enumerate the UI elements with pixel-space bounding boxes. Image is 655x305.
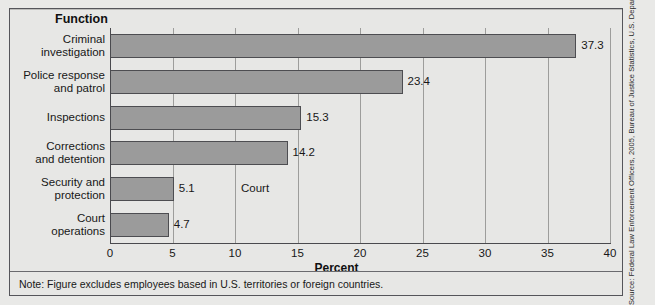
figure-container: Function CriminalinvestigationPolice res… (0, 0, 655, 305)
figure-note: Note: Figure excludes employees based in… (19, 278, 383, 290)
category-label-line: Police response (1, 69, 105, 82)
x-axis-title: Percent (0, 261, 655, 275)
category-label-line: and detention (1, 153, 105, 166)
x-tick-label: 5 (153, 247, 193, 260)
category-label-line: Security and (1, 176, 105, 189)
bar-value-label: 23.4 (408, 76, 430, 88)
x-tick-label: 20 (340, 247, 380, 260)
gridline (360, 28, 361, 243)
x-axis-line (110, 243, 611, 244)
bar-value-label: 14.2 (293, 147, 315, 159)
note-divider (10, 271, 622, 272)
bar (110, 141, 288, 165)
category-label: Courtoperations (1, 212, 105, 238)
bar (110, 213, 169, 237)
category-label-line: protection (1, 189, 105, 202)
court-annotation-label: Court (241, 182, 269, 194)
category-label-line: Criminal (1, 33, 105, 46)
gridline (610, 28, 611, 243)
x-tick-label: 40 (590, 247, 630, 260)
x-tick-label: 10 (215, 247, 255, 260)
bar-value-label: 15.3 (306, 112, 328, 124)
bar (110, 70, 403, 94)
category-label-line: Corrections (1, 140, 105, 153)
bar-value-label: 4.7 (174, 219, 190, 231)
bar-value-label: 5.1 (179, 183, 195, 195)
category-label: Correctionsand detention (1, 140, 105, 166)
x-tick-label: 35 (528, 247, 568, 260)
x-tick-label: 25 (403, 247, 443, 260)
gridline (298, 28, 299, 243)
bar (110, 34, 576, 58)
gridline (423, 28, 424, 243)
category-label-line: operations (1, 225, 105, 238)
gridline (548, 28, 549, 243)
plot-area: 37.323.415.314.25.14.7 (110, 28, 610, 243)
gridline (173, 28, 174, 243)
category-label-line: Inspections (1, 111, 105, 124)
category-label-line: Court (1, 212, 105, 225)
x-tick-label: 0 (90, 247, 130, 260)
category-label-line: investigation (1, 46, 105, 59)
bar-value-label: 37.3 (581, 40, 603, 52)
x-tick-label: 15 (278, 247, 318, 260)
gridline (485, 28, 486, 243)
x-tick-label: 30 (465, 247, 505, 260)
bar (110, 106, 301, 130)
category-label: Inspections (1, 111, 105, 124)
category-label-line: and patrol (1, 82, 105, 95)
category-label: Criminalinvestigation (1, 33, 105, 59)
y-axis-line (110, 28, 111, 244)
category-label: Police responseand patrol (1, 69, 105, 95)
category-label: Security andprotection (1, 176, 105, 202)
bar (110, 177, 174, 201)
gridline (235, 28, 236, 243)
